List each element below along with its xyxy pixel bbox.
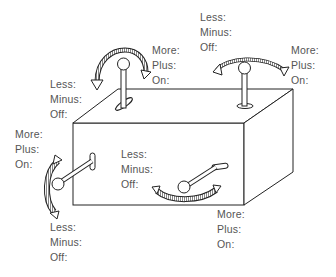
lever-knob: [239, 62, 251, 74]
label-off: Off:: [121, 177, 153, 192]
lever-knob: [52, 178, 64, 190]
label-on: On:: [217, 237, 245, 252]
label-less: Less:: [200, 10, 232, 25]
lever-knob: [178, 181, 190, 193]
label-plus: Plus:: [217, 222, 245, 237]
label-more: More:: [217, 207, 245, 222]
label-more: More:: [15, 127, 43, 142]
label-front-decrease: Less: Minus: Off:: [121, 147, 153, 192]
label-minus: Minus:: [200, 25, 232, 40]
label-minus: Minus:: [50, 92, 82, 107]
label-plus: Plus:: [291, 58, 319, 73]
label-plus: Plus:: [15, 142, 43, 157]
label-more: More:: [291, 43, 319, 58]
label-left-decrease: Less: Minus: Off:: [50, 220, 82, 265]
label-top-left-increase: More: Plus: On:: [152, 43, 180, 88]
label-less: Less:: [50, 77, 82, 92]
label-front-increase: More: Plus: On:: [217, 207, 245, 252]
label-on: On:: [291, 73, 319, 88]
label-on: On:: [152, 73, 180, 88]
label-top-left-decrease: Less: Minus: Off:: [50, 77, 82, 122]
label-left-increase: More: Plus: On:: [15, 127, 43, 172]
label-off: Off:: [50, 107, 82, 122]
lever-knob: [118, 58, 130, 70]
label-off: Off:: [200, 40, 232, 55]
label-on: On:: [15, 157, 43, 172]
label-minus: Minus:: [121, 162, 153, 177]
label-plus: Plus:: [152, 58, 180, 73]
label-less: Less:: [50, 220, 82, 235]
label-minus: Minus:: [50, 235, 82, 250]
label-off: Off:: [50, 250, 82, 265]
label-top-right-decrease: Less: Minus: Off:: [200, 10, 232, 55]
label-top-right-increase: More: Plus: On:: [291, 43, 319, 88]
label-less: Less:: [121, 147, 153, 162]
label-more: More:: [152, 43, 180, 58]
